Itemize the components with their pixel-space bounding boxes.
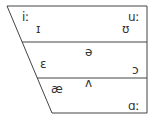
vowel-alpha-long: ɑː bbox=[128, 99, 140, 113]
vowel-symbols: iːɪuːʊəɛɔʌæɑː bbox=[22, 10, 140, 113]
vowel-schwa: ə bbox=[85, 45, 92, 59]
vowel-turned-v: ʌ bbox=[85, 76, 92, 90]
vowel-upsilon: ʊ bbox=[122, 22, 129, 36]
vowel-open-o: ɔ bbox=[132, 63, 139, 77]
vowel-open-e: ɛ bbox=[40, 57, 47, 71]
vowel-u-long: uː bbox=[128, 10, 140, 24]
vowel-small-capital-i: ɪ bbox=[36, 22, 40, 36]
vowel-i-long: iː bbox=[22, 10, 29, 24]
vowel-ash: æ bbox=[51, 82, 63, 96]
vowel-chart: iːɪuːʊəɛɔʌæɑː bbox=[0, 0, 156, 120]
